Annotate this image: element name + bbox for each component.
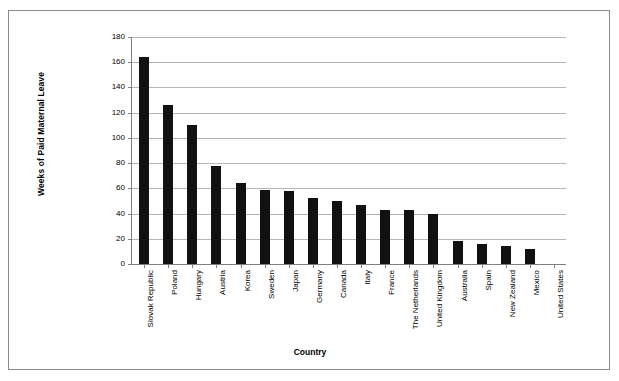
y-tick-label: 120 xyxy=(112,109,125,117)
x-tick-label: Australia xyxy=(461,270,469,301)
x-tick-label: Slovak Republic xyxy=(147,270,155,327)
x-tick-label: Hungary xyxy=(195,270,203,300)
y-tick-label: 0 xyxy=(121,260,125,268)
x-tick-mark xyxy=(409,264,410,268)
x-tick-mark xyxy=(192,264,193,268)
x-tick-mark xyxy=(433,264,434,268)
x-tick-mark xyxy=(530,264,531,268)
x-tick-label: Sweden xyxy=(268,270,276,299)
x-tick-mark xyxy=(265,264,266,268)
x-tick-label: Germany xyxy=(316,270,324,303)
bar xyxy=(428,214,438,264)
x-tick-label: France xyxy=(388,270,396,295)
x-tick-mark xyxy=(337,264,338,268)
bar xyxy=(477,244,487,264)
x-tick-label: Spain xyxy=(485,270,493,290)
y-tick-label: 160 xyxy=(112,58,125,66)
x-tick-label: United Kingdom xyxy=(436,270,444,327)
bar xyxy=(236,183,246,264)
x-tick-label: Korea xyxy=(244,270,252,291)
x-tick-label: Mexico xyxy=(533,270,541,295)
y-tick-label: 100 xyxy=(112,134,125,142)
x-tick-mark xyxy=(482,264,483,268)
x-tick-mark xyxy=(144,264,145,268)
x-tick-mark xyxy=(506,264,507,268)
x-tick-label: Italy xyxy=(364,270,372,285)
x-tick-mark xyxy=(458,264,459,268)
y-tick-mark xyxy=(128,264,132,265)
x-axis-title: Country xyxy=(9,347,611,357)
chart-figure-frame: Weeks of Paid Maternal Leave 02040608010… xyxy=(8,10,610,370)
y-tick-label: 140 xyxy=(112,83,125,91)
bar xyxy=(356,205,366,264)
bar xyxy=(501,246,511,264)
x-tick-mark xyxy=(241,264,242,268)
bar xyxy=(380,210,390,264)
x-tick-label: Canada xyxy=(340,270,348,298)
x-tick-mark xyxy=(385,264,386,268)
y-tick-label: 20 xyxy=(116,235,125,243)
y-tick-label: 60 xyxy=(116,184,125,192)
x-tick-mark xyxy=(168,264,169,268)
y-tick-label: 80 xyxy=(116,159,125,167)
x-tick-mark xyxy=(289,264,290,268)
x-tick-label: Japan xyxy=(292,270,300,292)
plot-area: 020406080100120140160180 Slovak Republic… xyxy=(131,37,566,265)
y-axis-title: Weeks of Paid Maternal Leave xyxy=(36,54,46,214)
bar xyxy=(139,57,149,264)
bar xyxy=(163,105,173,264)
x-tick-label: Austria xyxy=(219,270,227,295)
bar xyxy=(525,249,535,264)
x-tick-mark xyxy=(554,264,555,268)
bar xyxy=(260,190,270,264)
x-tick-label: Poland xyxy=(171,270,179,295)
bar xyxy=(308,198,318,264)
bar xyxy=(453,241,463,264)
x-tick-mark xyxy=(313,264,314,268)
bar xyxy=(284,191,294,264)
x-tick-mark xyxy=(361,264,362,268)
bar xyxy=(211,166,221,264)
bar-series xyxy=(132,37,566,264)
x-tick-label: United States xyxy=(557,270,565,318)
bar xyxy=(404,210,414,264)
x-tick-mark xyxy=(216,264,217,268)
bar xyxy=(187,125,197,264)
y-tick-label: 40 xyxy=(116,210,125,218)
x-tick-label: The Netherlands xyxy=(412,270,420,329)
x-tick-label: New Zealand xyxy=(509,270,517,317)
y-tick-label: 180 xyxy=(112,33,125,41)
bar xyxy=(332,201,342,264)
